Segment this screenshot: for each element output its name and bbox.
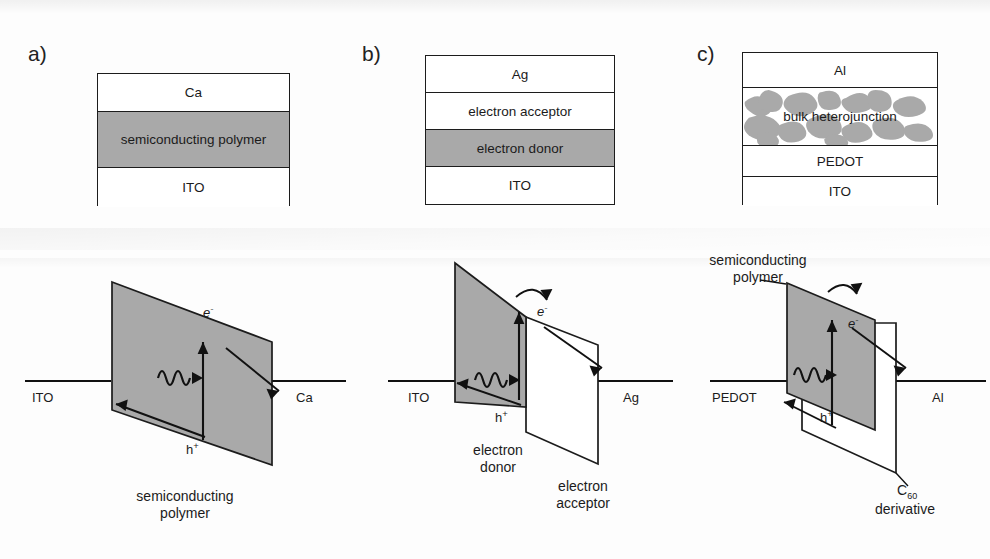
scan-artifact-band (0, 228, 990, 250)
device-stack-b: Ag electron acceptor electron donor ITO (425, 55, 615, 205)
caption-a-line1: semiconducting (95, 488, 275, 505)
energy-slab-group-b (330, 250, 670, 559)
layer-a-ca: Ca (98, 74, 289, 112)
caption-c-polymer-line2: polymer (678, 269, 838, 286)
layer-b-ito-label: ITO (509, 178, 531, 193)
layer-b-acceptor: electron acceptor (426, 93, 614, 130)
layer-b-donor: electron donor (426, 130, 614, 167)
panel-label-b: b) (362, 42, 381, 66)
caption-c-polymer: semiconducting polymer (678, 252, 838, 285)
caption-b-donor-line2: donor (438, 459, 558, 476)
electrode-label-pedot-c: PEDOT (712, 390, 757, 405)
hole-label-a: h+ (186, 440, 199, 457)
caption-b-donor-line1: electron (438, 442, 558, 459)
electron-label-c: e- (848, 314, 858, 331)
layer-c-bulk-heterojunction-label: bulk heterojunction (783, 109, 896, 124)
caption-b-acceptor-line1: electron (518, 478, 648, 495)
electrode-label-ag-b: Ag (623, 390, 639, 405)
layer-c-ito-label: ITO (829, 184, 851, 199)
caption-c-c60-main: C (897, 482, 907, 498)
hole-label-c: h+ (820, 408, 833, 425)
panel-label-a: a) (28, 42, 47, 66)
hole-label-b-charge: + (502, 408, 508, 419)
electron-label-a-charge: - (210, 303, 213, 314)
electron-label-a: e- (203, 303, 213, 320)
layer-c-pedot: PEDOT (743, 146, 937, 177)
device-stack-a: Ca semiconducting polymer ITO (97, 73, 290, 206)
panel-label-c: c) (697, 42, 715, 66)
electrode-label-ito-b: ITO (408, 390, 429, 405)
layer-a-ca-label: Ca (185, 85, 202, 100)
scan-artifact-band-top (0, 0, 990, 14)
electron-label-b-charge: - (544, 302, 547, 313)
caption-c-c60-sub: 60 (907, 491, 917, 501)
energy-diagram-c: PEDOT Al e- h+ semiconducting polymer C6… (660, 250, 990, 559)
caption-b-acceptor-line2: acceptor (518, 495, 648, 512)
caption-b-donor: electron donor (438, 442, 558, 475)
figure-canvas: a) Ca semiconducting polymer ITO (0, 0, 990, 559)
layer-c-al-label: Al (834, 63, 846, 78)
layer-c-pedot-label: PEDOT (817, 154, 864, 169)
layer-b-ag: Ag (426, 56, 614, 93)
caption-c-c60: C60 derivative (875, 482, 985, 518)
electrode-label-ito-a: ITO (32, 390, 53, 405)
electrode-label-al-c: Al (932, 390, 944, 405)
layer-a-ito: ITO (98, 168, 289, 207)
caption-c-c60-line2: derivative (875, 501, 985, 518)
energy-diagram-b: ITO Ag e- h+ electron donor electron acc… (330, 250, 670, 559)
layer-b-ito: ITO (426, 167, 614, 203)
layer-b-ag-label: Ag (512, 67, 529, 82)
hole-label-c-charge: + (827, 408, 833, 419)
electron-label-c-charge: - (855, 314, 858, 325)
hole-label-b: h+ (495, 408, 508, 425)
hole-label-a-charge: + (193, 440, 199, 451)
layer-b-donor-label: electron donor (477, 141, 563, 156)
layer-a-polymer-label: semiconducting polymer (121, 132, 267, 147)
electron-label-b: e- (537, 302, 547, 319)
layer-a-ito-label: ITO (182, 180, 204, 195)
device-stack-c: Al (742, 52, 938, 205)
caption-b-acceptor: electron acceptor (518, 478, 648, 511)
electrode-label-ca-a: Ca (296, 390, 313, 405)
caption-c-polymer-line1: semiconducting (678, 252, 838, 269)
caption-a-line2: polymer (95, 505, 275, 522)
caption-c-c60-line1: C60 (875, 482, 985, 501)
layer-b-acceptor-label: electron acceptor (468, 104, 572, 119)
layer-a-polymer: semiconducting polymer (98, 112, 289, 168)
layer-c-ito: ITO (743, 177, 937, 206)
layer-c-bulk-heterojunction: bulk heterojunction (743, 88, 937, 146)
energy-diagram-a: ITO Ca e- h+ semiconducting polymer (0, 250, 340, 559)
caption-a: semiconducting polymer (95, 488, 275, 521)
layer-c-al: Al (743, 53, 937, 88)
